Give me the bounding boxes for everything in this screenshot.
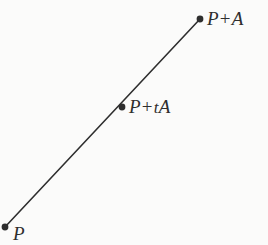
point-label-p-plus-a: P+A [207, 9, 244, 28]
line-segment [5, 19, 200, 227]
label-vector-a: A [232, 8, 244, 29]
label-operator-plus: + [141, 96, 154, 117]
line-diagram-canvas [0, 0, 268, 245]
point-label-p-plus-ta: P+tA [129, 97, 170, 116]
label-base-p: P [13, 223, 25, 244]
point-label-p: P [13, 224, 25, 243]
label-base-p: P [207, 8, 219, 29]
point-marker-p-plus-ta [119, 104, 126, 111]
point-marker-p [2, 224, 9, 231]
label-operator-plus: + [219, 8, 232, 29]
label-base-p: P [129, 96, 141, 117]
point-marker-p-plus-a [197, 16, 204, 23]
label-vector-a: A [159, 96, 171, 117]
figure-container: P+A P+tA P [0, 0, 268, 245]
